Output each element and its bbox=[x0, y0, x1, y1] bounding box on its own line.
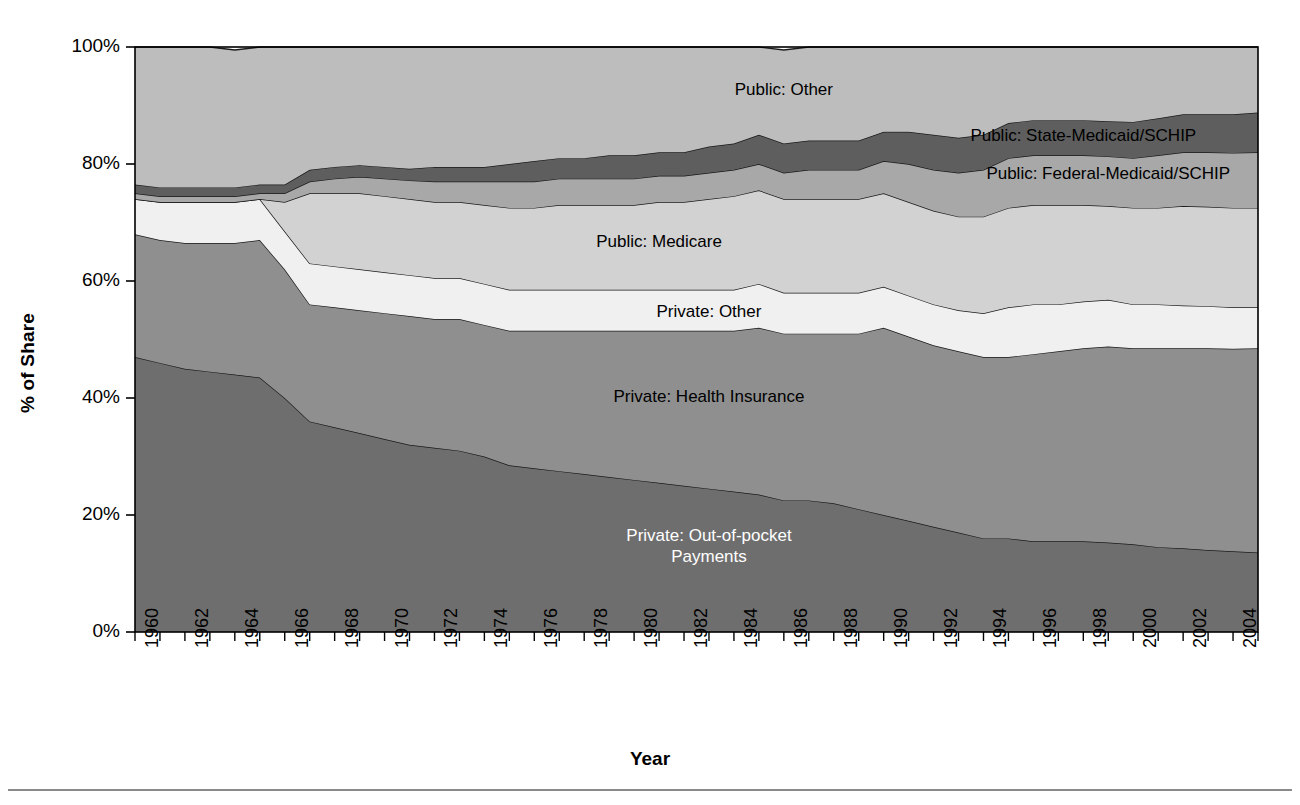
x-tick-label: 1988 bbox=[841, 608, 862, 648]
x-tick-label: 1998 bbox=[1090, 608, 1111, 648]
chart-page: % of Share Year 100%80%60%40%20%0% 19601… bbox=[0, 0, 1300, 805]
x-tick-label: 1962 bbox=[192, 608, 213, 648]
band-label-private-oop-line1: Private: Out-of-pocket bbox=[549, 526, 869, 546]
x-tick-label: 1994 bbox=[990, 608, 1011, 648]
y-tick-label: 0% bbox=[34, 620, 120, 642]
x-tick-label: 1984 bbox=[741, 608, 762, 648]
band-label-private-health-insurance: Private: Health Insurance bbox=[559, 387, 859, 407]
band-label-public-federal-medicaid: Public: Federal-Medicaid/SCHIP bbox=[918, 164, 1298, 184]
band-label-private-other: Private: Other bbox=[599, 302, 819, 322]
band-label-private-oop-line2: Payments bbox=[549, 547, 869, 567]
x-tick-label: 1960 bbox=[142, 608, 163, 648]
y-tick-label: 80% bbox=[34, 152, 120, 174]
x-tick-label: 1978 bbox=[591, 608, 612, 648]
x-tick-label: 1974 bbox=[491, 608, 512, 648]
x-tick-label: 1964 bbox=[242, 608, 263, 648]
x-tick-label: 1976 bbox=[541, 608, 562, 648]
y-tick-label: 20% bbox=[34, 503, 120, 525]
x-tick-label: 2000 bbox=[1140, 608, 1161, 648]
x-tick-label: 1986 bbox=[791, 608, 812, 648]
x-tick-label: 1968 bbox=[342, 608, 363, 648]
band-label-public-other: Public: Other bbox=[634, 80, 934, 100]
x-axis-title: Year bbox=[0, 748, 1300, 770]
x-tick-label: 2002 bbox=[1190, 608, 1211, 648]
x-tick-label: 1970 bbox=[392, 608, 413, 648]
x-tick-label: 1982 bbox=[691, 608, 712, 648]
band-label-public-state-medicaid: Public: State-Medicaid/SCHIP bbox=[903, 126, 1263, 146]
x-tick-label: 2004 bbox=[1240, 608, 1261, 648]
y-tick-label: 60% bbox=[34, 269, 120, 291]
x-tick-label: 1992 bbox=[941, 608, 962, 648]
band-label-public-medicare: Public: Medicare bbox=[529, 232, 789, 252]
y-tick-label: 100% bbox=[34, 35, 120, 57]
x-tick-label: 1990 bbox=[891, 608, 912, 648]
x-tick-label: 1980 bbox=[641, 608, 662, 648]
bottom-divider bbox=[8, 789, 1292, 791]
y-tick-label: 40% bbox=[34, 386, 120, 408]
y-axis-title: % of Share bbox=[17, 273, 39, 453]
x-tick-label: 1966 bbox=[292, 608, 313, 648]
x-tick-label: 1972 bbox=[441, 608, 462, 648]
x-tick-label: 1996 bbox=[1040, 608, 1061, 648]
